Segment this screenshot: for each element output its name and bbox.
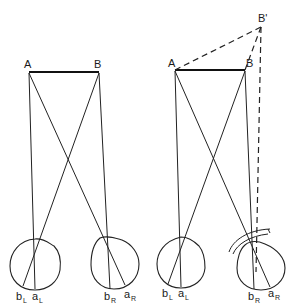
- label-aL-sub: L: [39, 297, 43, 304]
- label-bR-sub: R: [111, 297, 116, 304]
- ray-A-bR: [29, 73, 125, 285]
- label-aL: a: [178, 287, 185, 299]
- ray-B-aR: [99, 73, 110, 289]
- label-aL: a: [32, 290, 39, 302]
- label-aR: a: [268, 287, 275, 299]
- label-bL: b: [162, 287, 168, 299]
- label-bL-sub: L: [169, 294, 173, 301]
- label-bL-sub: L: [23, 297, 27, 304]
- ray-B-bL: [23, 73, 99, 286]
- label-A: A: [24, 58, 32, 70]
- label-aR-sub: R: [131, 295, 136, 302]
- right-panel: A B B' b L a L b R a R: [157, 12, 285, 304]
- left-panel: A B b L a L b R a R: [10, 58, 139, 304]
- label-bR-sub: R: [255, 297, 260, 304]
- label-B: B: [94, 58, 101, 70]
- label-B-prime: B': [258, 12, 267, 24]
- label-aR: a: [124, 288, 131, 300]
- ray-A-aR: [175, 71, 270, 287]
- ray-A-aL: [175, 71, 181, 287]
- label-A: A: [168, 57, 176, 69]
- label-aL-sub: L: [185, 294, 189, 301]
- ray-B-bR: [245, 71, 254, 289]
- label-aR-sub: R: [275, 294, 280, 301]
- label-bR: b: [104, 290, 110, 302]
- label-bL: b: [16, 290, 22, 302]
- ray-A-aL: [29, 73, 35, 289]
- label-bR: b: [248, 290, 254, 302]
- binocular-vision-diagram: A B b L a L b R a R A B B': [0, 0, 297, 308]
